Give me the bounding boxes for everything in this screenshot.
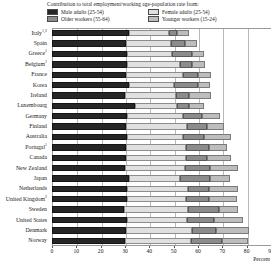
legend-item-older[interactable]: Older workers (55-64) [47, 16, 148, 23]
bar-segment-male[interactable] [52, 92, 125, 98]
bar-segment-younger[interactable] [222, 238, 248, 244]
bar-row: Spain [0, 38, 271, 48]
bar-segment-male[interactable] [52, 155, 126, 161]
bar-segment-female[interactable] [129, 30, 169, 36]
bar-segment-female[interactable] [127, 61, 179, 67]
bar-segment-younger[interactable] [214, 217, 243, 223]
bar-row: Denmark [0, 225, 271, 235]
bar-segment-male[interactable] [52, 113, 127, 119]
bar-segment-younger[interactable] [185, 40, 197, 46]
bar-segment-male[interactable] [52, 61, 127, 67]
bar-segment-younger[interactable] [207, 123, 224, 129]
bar-segment-older[interactable] [188, 186, 209, 192]
bar-segment-younger[interactable] [209, 144, 227, 150]
bar-segment-male[interactable] [52, 165, 125, 171]
bar-segment-female[interactable] [126, 123, 187, 129]
bar-segment-female[interactable] [127, 113, 183, 119]
bar-segment-male[interactable] [52, 217, 127, 223]
bar-segment-male[interactable] [52, 30, 129, 36]
bar-segment-younger[interactable] [204, 134, 231, 140]
bar-segment-older[interactable] [169, 30, 178, 36]
legend-label-male: Male adults (25-54) [61, 9, 104, 15]
category-label-ireland: Ireland [0, 92, 49, 99]
bar-segment-younger[interactable] [216, 227, 249, 233]
bar-segment-female[interactable] [125, 92, 176, 98]
bar-row: Korea [0, 80, 271, 90]
bar-segment-younger[interactable] [219, 206, 238, 212]
bar-segment-older[interactable] [187, 123, 206, 129]
bar-segment-male[interactable] [52, 82, 129, 88]
bar-segment-male[interactable] [52, 175, 129, 181]
bar-segment-male[interactable] [52, 196, 127, 202]
bar-segment-younger[interactable] [198, 82, 210, 88]
category-label-sweden: Sweden [0, 206, 49, 213]
bar-segment-female[interactable] [127, 51, 172, 57]
legend-items: Male adults (25-54)Female adults (25-54)… [47, 9, 269, 23]
bar-segment-older[interactable] [180, 175, 210, 181]
bar-segment-female[interactable] [127, 196, 185, 202]
legend-item-younger[interactable]: Younger workers (15-24) [148, 16, 217, 23]
bar-segment-female[interactable] [125, 238, 191, 244]
bar-segment-female[interactable] [126, 227, 192, 233]
bar-segment-younger[interactable] [198, 72, 211, 78]
bar-segment-male[interactable] [52, 238, 125, 244]
bar-segment-female[interactable] [124, 206, 188, 212]
bar-segment-older[interactable] [172, 51, 191, 57]
bar-segment-younger[interactable] [202, 113, 220, 119]
bar-segment-older[interactable] [174, 82, 198, 88]
bar-segment-male[interactable] [52, 123, 126, 129]
bar-segment-older[interactable] [188, 206, 218, 212]
legend-item-male[interactable]: Male adults (25-54) [47, 9, 148, 16]
bar-segment-male[interactable] [52, 72, 126, 78]
bar-segment-female[interactable] [127, 186, 188, 192]
bar-segment-female[interactable] [126, 40, 171, 46]
bar-segment-older[interactable] [183, 134, 204, 140]
bar-row: Greece1 [0, 49, 271, 59]
bar-segment-younger[interactable] [192, 51, 204, 57]
bar-segment-female[interactable] [126, 72, 183, 78]
bar-segment-older[interactable] [186, 196, 209, 202]
bar-segment-older[interactable] [180, 61, 192, 67]
bar-segment-older[interactable] [185, 165, 211, 171]
bar-segment-younger[interactable] [189, 103, 204, 109]
bar-segment-older[interactable] [177, 103, 189, 109]
bar-segment-younger[interactable] [210, 165, 238, 171]
bar-segment-female[interactable] [129, 175, 180, 181]
bar-segment-female[interactable] [126, 144, 186, 150]
category-label-australia: Australia [0, 133, 49, 140]
bar-segment-male[interactable] [52, 144, 126, 150]
bar-segment-male[interactable] [52, 227, 126, 233]
bar-segment-female[interactable] [127, 134, 183, 140]
legend-swatch-older-icon [47, 16, 58, 23]
bar-segment-older[interactable] [176, 92, 189, 98]
bar-row: Japan [0, 173, 271, 183]
bar-segment-older[interactable] [191, 238, 223, 244]
bar-segment-younger[interactable] [177, 30, 189, 36]
bar-segment-female[interactable] [126, 155, 186, 161]
bar-segment-younger[interactable] [210, 175, 229, 181]
bar-segment-older[interactable] [183, 72, 198, 78]
bar-segment-male[interactable] [52, 134, 127, 140]
bar-segment-younger[interactable] [192, 61, 205, 67]
bar-segment-older[interactable] [186, 155, 207, 161]
bar-segment-older[interactable] [187, 217, 214, 223]
bar-segment-younger[interactable] [189, 92, 211, 98]
bar-segment-older[interactable] [171, 40, 184, 46]
bar-row: Luxembourg [0, 101, 271, 111]
bar-segment-male[interactable] [52, 51, 127, 57]
bar-segment-female[interactable] [125, 165, 185, 171]
bar-segment-older[interactable] [183, 113, 201, 119]
bar-segment-older[interactable] [186, 144, 209, 150]
bar-segment-younger[interactable] [209, 186, 238, 192]
bar-segment-older[interactable] [192, 227, 216, 233]
bar-segment-male[interactable] [52, 103, 135, 109]
bar-segment-younger[interactable] [209, 196, 237, 202]
bar-segment-male[interactable] [52, 40, 126, 46]
bar-segment-younger[interactable] [207, 155, 231, 161]
bar-segment-male[interactable] [52, 206, 124, 212]
legend-item-female[interactable]: Female adults (25-54) [148, 9, 210, 16]
bar-segment-female[interactable] [135, 103, 178, 109]
bar-segment-female[interactable] [127, 217, 187, 223]
bar-segment-female[interactable] [129, 82, 174, 88]
bar-segment-male[interactable] [52, 186, 127, 192]
